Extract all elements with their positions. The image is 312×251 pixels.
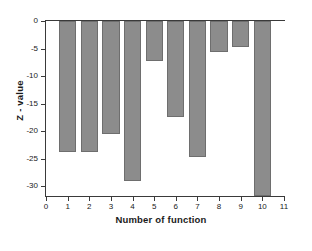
bar <box>59 21 76 152</box>
y-tick-label-wrap: -5 <box>0 45 38 53</box>
y-tick-label-wrap: 0 <box>0 17 38 25</box>
y-tick-label-wrap: -15 <box>0 100 38 108</box>
bar-chart: Z - value Number of function 0-5-10-15-2… <box>0 0 312 251</box>
x-tick-label: 8 <box>209 203 229 211</box>
bar <box>210 21 227 52</box>
bar <box>232 21 249 47</box>
x-tick-label: 7 <box>187 203 207 211</box>
x-tick-mark <box>262 197 263 201</box>
y-tick-label: -15 <box>12 100 38 108</box>
x-tick-mark <box>284 197 285 201</box>
x-tick-label: 9 <box>231 203 251 211</box>
x-tick-label: 10 <box>252 203 272 211</box>
x-tick-mark <box>111 197 112 201</box>
x-tick-mark <box>89 197 90 201</box>
bar <box>254 21 271 196</box>
y-tick-label: 0 <box>12 17 38 25</box>
x-tick-mark <box>197 197 198 201</box>
y-tick-label: -30 <box>12 182 38 190</box>
y-tick-label: -25 <box>12 155 38 163</box>
x-tick-label: 0 <box>36 203 56 211</box>
y-tick-label-wrap: -10 <box>0 72 38 80</box>
x-tick-mark <box>68 197 69 201</box>
x-tick-mark <box>133 197 134 201</box>
plot-area <box>46 21 284 196</box>
x-axis-title: Number of function <box>36 214 286 225</box>
bar <box>124 21 141 181</box>
x-tick-label: 6 <box>166 203 186 211</box>
y-tick-label-wrap: -20 <box>0 127 38 135</box>
bar <box>81 21 98 152</box>
y-tick-label-wrap: -30 <box>0 182 38 190</box>
y-tick-label: -20 <box>12 127 38 135</box>
bar <box>146 21 163 61</box>
x-tick-label: 11 <box>274 203 294 211</box>
x-tick-mark <box>154 197 155 201</box>
bar <box>167 21 184 117</box>
x-tick-mark <box>219 197 220 201</box>
bar <box>189 21 206 157</box>
x-tick-label: 4 <box>123 203 143 211</box>
x-tick-label: 1 <box>58 203 78 211</box>
x-axis-line <box>45 196 285 197</box>
bar <box>102 21 119 134</box>
y-tick-label: -10 <box>12 72 38 80</box>
x-tick-label: 5 <box>144 203 164 211</box>
x-tick-mark <box>46 197 47 201</box>
y-tick-label-wrap: -25 <box>0 155 38 163</box>
x-tick-label: 3 <box>101 203 121 211</box>
x-tick-label: 2 <box>79 203 99 211</box>
x-tick-mark <box>176 197 177 201</box>
y-tick-label: -5 <box>12 45 38 53</box>
x-tick-mark <box>241 197 242 201</box>
